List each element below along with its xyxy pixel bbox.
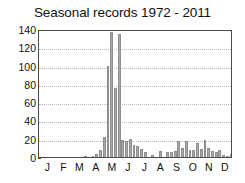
bar: [125, 141, 128, 157]
bar: [222, 155, 225, 157]
bar: [166, 152, 169, 157]
y-tick-label: 100: [2, 62, 36, 73]
bar: [192, 150, 195, 157]
bar: [140, 149, 143, 157]
x-tick-label: N: [201, 161, 217, 173]
x-tick-label: M: [104, 161, 120, 173]
x-tick-label: D: [217, 161, 233, 173]
bar: [170, 152, 173, 157]
bar: [99, 150, 102, 157]
bar: [207, 148, 210, 157]
bar: [226, 156, 229, 157]
bar: [177, 141, 180, 157]
bar: [215, 152, 218, 157]
bar: [211, 151, 214, 157]
bar: [110, 32, 113, 157]
x-tick-label: O: [185, 161, 201, 173]
bar: [230, 154, 232, 157]
bar-series: [39, 31, 231, 157]
x-tick-label: M: [71, 161, 87, 173]
bar: [200, 149, 203, 157]
bar: [174, 151, 177, 157]
bar: [92, 156, 95, 157]
y-tick-mark: [38, 158, 41, 159]
bar: [136, 146, 139, 157]
bar: [185, 141, 188, 157]
x-axis: JFMAMJJASOND: [38, 161, 232, 177]
bar: [84, 156, 87, 157]
bar: [151, 155, 154, 157]
y-tick-label: 140: [2, 25, 36, 36]
bar: [114, 88, 117, 157]
x-tick-label: J: [136, 161, 152, 173]
y-tick-label: 40: [2, 116, 36, 127]
bar: [107, 66, 110, 157]
chart-figure: Seasonal records 1972 - 2011 02040608010…: [0, 0, 245, 183]
x-tick-label: J: [39, 161, 55, 173]
x-tick-label: S: [168, 161, 184, 173]
y-tick-label: 60: [2, 98, 36, 109]
y-tick-label: 80: [2, 80, 36, 91]
y-tick-label: 0: [2, 153, 36, 164]
bar: [181, 148, 184, 157]
chart-title: Seasonal records 1972 - 2011: [0, 5, 245, 20]
bar: [159, 151, 162, 157]
bar: [121, 140, 124, 157]
x-tick-label: F: [55, 161, 71, 173]
x-tick-label: J: [120, 161, 136, 173]
x-tick-label: A: [152, 161, 168, 173]
y-axis: 020406080100120140: [0, 30, 36, 158]
bar: [133, 145, 136, 157]
plot-area: [38, 30, 232, 158]
bar: [118, 34, 121, 157]
y-tick-label: 120: [2, 43, 36, 54]
y-tick-label: 20: [2, 135, 36, 146]
bar: [196, 143, 199, 157]
bar: [95, 154, 98, 157]
bar: [218, 150, 221, 157]
bar: [129, 139, 132, 157]
x-tick-label: A: [88, 161, 104, 173]
bar: [103, 137, 106, 157]
bar: [189, 150, 192, 157]
bar: [144, 152, 147, 157]
bar: [204, 140, 207, 157]
